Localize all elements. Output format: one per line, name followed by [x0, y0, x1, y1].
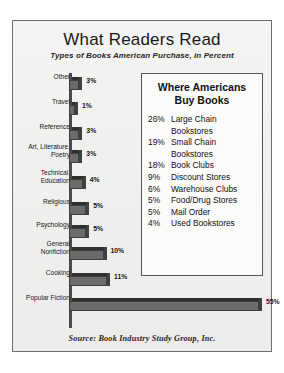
page-title: What Readers Read: [13, 30, 271, 50]
panel-item-name-line: Warehouse Clubs: [171, 184, 258, 196]
bar-value-label: 55%: [266, 298, 280, 305]
bar-value-label: 3%: [86, 150, 96, 157]
bar-value-label: 1%: [82, 102, 92, 109]
bar: [69, 77, 82, 90]
panel-item-name: Food/Drug Stores: [171, 195, 258, 207]
panel-item-name-line: Discount Stores: [171, 172, 258, 184]
bar-value-label: 3%: [86, 127, 96, 134]
panel-item-name: Discount Stores: [171, 172, 258, 184]
bar: [69, 102, 78, 115]
bar-category-label-line: Reference: [8, 123, 70, 131]
bar-row: Popular Fiction55%: [13, 294, 143, 315]
panel-item-name-line: Large Chain: [171, 114, 258, 126]
bar-chart: Other3%Travel1%Reference3%Art, Literatur…: [13, 73, 143, 328]
bar-category-label-line: Travel: [8, 98, 70, 106]
bar-row: Psychology5%: [13, 221, 143, 242]
bar-category-label: Reference: [8, 123, 70, 131]
panel-item-name-line: Bookstores: [171, 126, 258, 138]
panel-item-name-line: Bookstores: [171, 149, 258, 161]
bar: [69, 202, 89, 215]
bar-side-face: [75, 102, 78, 115]
bar-row: Technical,Education4%: [13, 172, 143, 193]
bar-category-label-line: Education: [8, 177, 70, 185]
panel-item-percent: 18%: [148, 160, 171, 172]
bar-side-face: [79, 127, 82, 140]
panel-list-item: 5%Mail Order: [142, 207, 262, 219]
panel-item-name: Warehouse Clubs: [171, 184, 258, 196]
bar-row: Other3%: [13, 73, 143, 94]
bar-row: Religious5%: [13, 198, 143, 219]
bar-value-label: 10%: [111, 247, 125, 254]
bar-category-label-line: Popular Fiction: [8, 294, 70, 302]
bar-value-label: 11%: [114, 273, 127, 280]
bar-front-face: [69, 228, 86, 238]
bar-side-face: [86, 202, 89, 215]
bar-category-label: Psychology: [8, 221, 70, 229]
bar-row: Art, Literature,Poetry3%: [13, 146, 143, 167]
bar-category-label: Popular Fiction: [8, 294, 70, 302]
panel-item-name-line: Book Clubs: [171, 160, 258, 172]
bar-category-label-line: Poetry: [8, 151, 70, 159]
page-subtitle: Types of Books American Purchase, in Per…: [13, 51, 271, 60]
bar-category-label-line: Art, Literature,: [8, 143, 70, 151]
bar-row: Travel1%: [13, 98, 143, 119]
side-panel-title: Where Americans Buy Books: [148, 81, 256, 107]
bar-side-face: [259, 298, 262, 311]
panel-item-percent: 19%: [148, 137, 171, 149]
source-note: Source: Book Industry Study Group, Inc.: [13, 334, 271, 343]
panel-item-percent: 6%: [148, 184, 171, 196]
bar-front-face: [69, 205, 86, 215]
bar-side-face: [104, 247, 107, 260]
bar-category-label-line: Technical,: [8, 169, 70, 177]
bar-value-label: 5%: [93, 202, 103, 209]
panel-item-percent: 5%: [148, 207, 171, 219]
panel-item-name-line: Small Chain: [171, 137, 258, 149]
bar-category-label: Art, Literature,Poetry: [8, 143, 70, 160]
panel-list-item: 5%Food/Drug Stores: [142, 195, 262, 207]
bar: [69, 150, 82, 163]
bar-side-face: [86, 225, 89, 238]
panel-item-name: Large ChainBookstores: [171, 114, 258, 137]
bar-front-face: [69, 80, 79, 90]
bar-value-label: 4%: [90, 176, 100, 183]
bar-category-label-line: Other: [8, 73, 70, 81]
panel-item-name: Mail Order: [171, 207, 258, 219]
bar: [69, 225, 89, 238]
panel-item-name: Small ChainBookstores: [171, 137, 258, 160]
panel-list-item: 18%Book Clubs: [142, 160, 262, 172]
bar-front-face: [69, 276, 107, 286]
bar-value-label: 5%: [93, 225, 103, 232]
panel-item-name-line: Food/Drug Stores: [171, 195, 258, 207]
bar-side-face: [83, 176, 86, 189]
bar-front-face: [69, 179, 83, 189]
bar-category-label: Travel: [8, 98, 70, 106]
bar-category-label: GeneralNonfiction: [8, 240, 70, 257]
bar-front-face: [69, 130, 79, 140]
panel-list-item: 6%Warehouse Clubs: [142, 184, 262, 196]
side-panel: Where Americans Buy Books 26%Large Chain…: [141, 73, 263, 276]
panel-list-item: 9%Discount Stores: [142, 172, 262, 184]
bar-category-label-line: General: [8, 240, 70, 248]
side-panel-title-line1: Where Americans: [148, 81, 256, 94]
panel-item-name-line: Mail Order: [171, 207, 258, 219]
infographic-canvas: What Readers Read Types of Books America…: [0, 0, 284, 373]
bar-category-label-line: Psychology: [8, 221, 70, 229]
bar-category-label: Other: [8, 73, 70, 81]
bar-side-face: [79, 77, 82, 90]
panel-list-item: 4%Used Bookstores: [142, 218, 262, 230]
bar-category-label: Technical,Education: [8, 169, 70, 186]
panel-item-name: Used Bookstores: [171, 218, 258, 230]
bar-front-face: [69, 250, 104, 260]
bar-front-face: [69, 153, 79, 163]
bar: [69, 298, 262, 311]
bar-category-label-line: Religious: [8, 198, 70, 206]
bar: [69, 176, 86, 189]
bar-side-face: [107, 273, 110, 286]
side-panel-title-line2: Buy Books: [148, 94, 256, 107]
bar-row: GeneralNonfiction10%: [13, 243, 143, 264]
panel-list-item: 19%Small ChainBookstores: [142, 137, 262, 160]
bar-category-label-line: Nonfiction: [8, 248, 70, 256]
bar: [69, 127, 82, 140]
panel-item-name-line: Used Bookstores: [171, 218, 258, 230]
panel-item-percent: 4%: [148, 218, 171, 230]
